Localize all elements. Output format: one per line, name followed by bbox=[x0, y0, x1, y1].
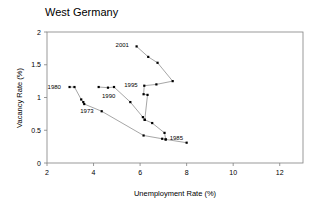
annotation-label: 1973 bbox=[80, 108, 94, 114]
y-tick-label: 1.5 bbox=[31, 61, 41, 68]
x-axis-title: Unemployment Rate (%) bbox=[134, 189, 217, 198]
chart-container: West Germany 24681012 00.511.52 19801973… bbox=[0, 0, 319, 201]
data-point-marker bbox=[142, 93, 144, 95]
data-point-marker bbox=[143, 85, 145, 87]
data-point-marker bbox=[142, 116, 144, 118]
data-point-marker bbox=[147, 56, 149, 58]
x-tick-label: 6 bbox=[138, 169, 142, 176]
annotation-label: 1980 bbox=[48, 84, 62, 90]
annotation-label: 1985 bbox=[170, 135, 184, 141]
data-point-marker bbox=[163, 132, 165, 134]
data-point-marker bbox=[161, 138, 163, 140]
data-point-marker bbox=[80, 98, 82, 100]
data-point-marker bbox=[155, 83, 157, 85]
x-tick-label: 8 bbox=[185, 169, 189, 176]
plot-area: 24681012 00.511.52 198019731990199520011… bbox=[0, 0, 319, 201]
data-point-marker bbox=[82, 101, 84, 103]
series-line bbox=[70, 87, 187, 143]
data-series-group bbox=[68, 45, 187, 143]
data-point-marker bbox=[68, 86, 70, 88]
data-point-marker bbox=[129, 101, 131, 103]
plot-frame bbox=[47, 32, 303, 163]
data-point-marker bbox=[172, 80, 174, 82]
x-tick-label: 4 bbox=[92, 169, 96, 176]
data-point-marker bbox=[144, 119, 146, 121]
y-tick-label: 1 bbox=[37, 94, 41, 101]
data-point-marker bbox=[136, 45, 138, 47]
data-point-marker bbox=[165, 138, 167, 140]
data-point-marker bbox=[142, 134, 144, 136]
data-point-marker bbox=[113, 86, 115, 88]
data-point-labels: 198019731990199520011985 bbox=[48, 42, 184, 141]
annotation-label: 1990 bbox=[102, 93, 116, 99]
y-tick-label: 2 bbox=[37, 29, 41, 36]
annotation-label: 2001 bbox=[116, 42, 130, 48]
x-axis-ticks: 24681012 bbox=[45, 163, 284, 176]
data-point-marker bbox=[101, 110, 103, 112]
data-point-marker bbox=[151, 122, 153, 124]
x-tick-label: 10 bbox=[229, 169, 237, 176]
data-point-marker bbox=[186, 142, 188, 144]
x-tick-label: 12 bbox=[276, 169, 284, 176]
series-line bbox=[137, 46, 173, 119]
data-point-marker bbox=[107, 87, 109, 89]
x-tick-label: 2 bbox=[45, 169, 49, 176]
y-tick-label: 0 bbox=[37, 160, 41, 167]
y-tick-label: 0.5 bbox=[31, 127, 41, 134]
y-axis-title: Vacancy Rate (%) bbox=[15, 68, 24, 128]
data-point-marker bbox=[83, 103, 85, 105]
annotation-label: 1995 bbox=[124, 82, 138, 88]
data-point-marker bbox=[98, 86, 100, 88]
data-point-marker bbox=[73, 86, 75, 88]
data-point-marker bbox=[146, 94, 148, 96]
data-point-marker bbox=[156, 62, 158, 64]
y-axis-ticks: 00.511.52 bbox=[31, 29, 47, 167]
